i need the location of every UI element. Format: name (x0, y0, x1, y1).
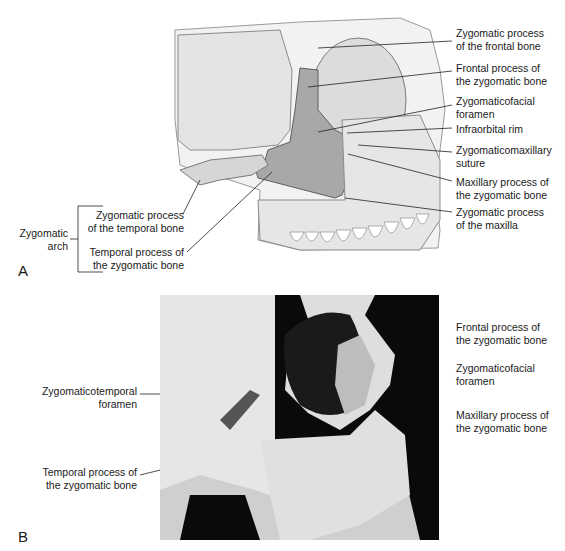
label-b-frontal-process-zygomatic-bone: Frontal process of the zygomatic bone (456, 321, 547, 346)
label-zygomaticomaxillary-suture: Zygomaticomaxillary suture (456, 144, 552, 169)
panel-letter-a: A (18, 262, 28, 279)
label-zygomatic-process-temporal-bone: Zygomatic process of the temporal bone (80, 209, 184, 234)
label-b-zygomaticofacial-foramen: Zygomaticofacial foramen (456, 362, 535, 387)
label-zygomaticofacial-foramen: Zygomaticofacial foramen (456, 95, 535, 120)
label-maxillary-process-zygomatic-bone: Maxillary process of the zygomatic bone (456, 176, 549, 201)
panel-b-photo (160, 295, 439, 540)
label-frontal-process-zygomatic-bone: Frontal process of the zygomatic bone (456, 62, 547, 87)
label-zygomatic-process-frontal-bone: Zygomatic process of the frontal bone (456, 27, 544, 52)
label-b-zygomaticotemporal-foramen: Zygomaticotemporal foramen (20, 385, 137, 410)
label-zygomatic-arch: Zygomatic arch (10, 227, 68, 252)
label-infraorbital-rim: Infraorbital rim (456, 123, 523, 136)
panel-letter-b: B (18, 528, 28, 545)
label-zygomatic-process-maxilla: Zygomatic process of the maxilla (456, 206, 544, 231)
label-temporal-process-zygomatic-bone: Temporal process of the zygomatic bone (80, 246, 184, 271)
label-b-maxillary-process-zygomatic-bone: Maxillary process of the zygomatic bone (456, 409, 549, 434)
label-b-temporal-process-zygomatic-bone: Temporal process of the zygomatic bone (20, 466, 137, 491)
